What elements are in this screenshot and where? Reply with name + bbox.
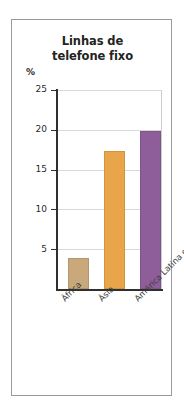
y-tick-label-25: 25: [23, 85, 47, 94]
y-tick-label-5: 5: [23, 245, 47, 254]
chart-title: Linhas de telefone fixo: [12, 34, 173, 64]
y-axis-unit-label: %: [26, 67, 35, 77]
chart-title-line-2: telefone fixo: [12, 49, 173, 64]
y-tick-label-10: 10: [23, 205, 47, 214]
bar-america-latina-e-caribe: [140, 131, 161, 289]
y-tick-mark-10: [51, 209, 57, 210]
y-tick-label-15: 15: [23, 165, 47, 174]
bar-asia: [104, 151, 125, 289]
plot-area: [57, 90, 162, 289]
y-tick-label-20: 20: [23, 125, 47, 134]
y-tick-mark-5: [51, 249, 57, 250]
y-tick-mark-25: [51, 90, 57, 91]
y-tick-mark-20: [51, 130, 57, 131]
chart-title-line-1: Linhas de: [12, 34, 173, 49]
figure-frame: Linhas de telefone fixo % 25 20 15 10 5 …: [11, 19, 172, 396]
y-axis-line: [56, 89, 58, 290]
y-tick-mark-15: [51, 170, 57, 171]
gridline-25: [57, 90, 161, 91]
